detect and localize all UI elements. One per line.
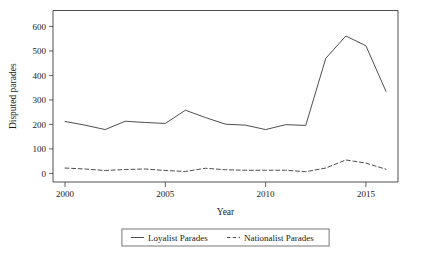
chart-figure: 0100200300400500600 2000200520102015 Dis… [0,0,423,257]
y-axis-tick-marks [49,26,53,173]
x-axis-tick-labels: 2000200520102015 [56,189,375,199]
y-tick-label: 200 [33,120,47,130]
y-axis-tick-labels: 0100200300400500600 [33,22,47,179]
x-tick-label: 2000 [56,189,75,199]
legend-label: Loyalist Parades [148,233,208,243]
x-axis-title: Year [217,207,235,217]
y-tick-label: 600 [33,22,47,32]
y-tick-label: 0 [42,169,47,179]
y-tick-label: 100 [33,144,47,154]
y-tick-label: 400 [33,71,47,81]
y-axis-title: Disputed parades [8,63,18,129]
legend-label: Nationalist Parades [244,233,314,243]
series-line-nationalist-parades [65,160,386,172]
x-tick-label: 2005 [156,189,175,199]
y-tick-label: 300 [33,95,47,105]
series-line-loyalist-parades [65,36,386,130]
data-series-group [65,36,386,172]
chart-legend: Loyalist ParadesNationalist Parades [122,229,329,246]
line-chart: 0100200300400500600 2000200520102015 Dis… [0,0,423,257]
x-axis-tick-marks [65,182,366,187]
y-tick-label: 500 [33,46,47,56]
x-tick-label: 2015 [357,189,376,199]
x-tick-label: 2010 [257,189,276,199]
